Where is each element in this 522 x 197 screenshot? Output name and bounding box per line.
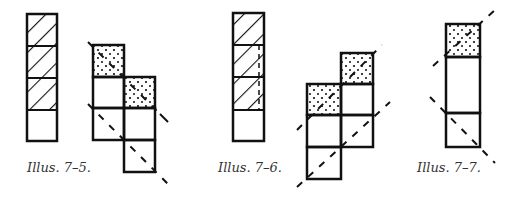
net-shape [88,42,168,184]
caption-illus-7-5: Illus. 7–5. [27,160,91,175]
caption-illus-7-6: Illus. 7–6. [218,160,282,175]
hatched-column [27,14,57,141]
caption-illus-7-7: Illus. 7–7. [417,160,481,175]
illus-7-7 [430,10,495,163]
hatched-column [233,13,264,141]
net-shape [297,45,390,187]
illus-7-5 [27,14,168,184]
